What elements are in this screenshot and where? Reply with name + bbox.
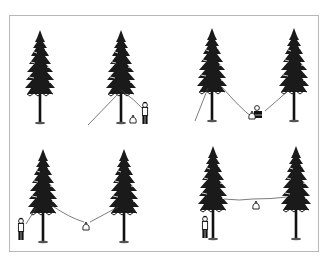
rope: [265, 90, 289, 111]
rope: [26, 208, 36, 224]
pine-tree-icon: [28, 149, 58, 243]
pine-tree-icon: [281, 146, 311, 240]
rope: [51, 205, 84, 222]
bag-icon: [130, 115, 136, 123]
pine-tree-icon: [197, 28, 227, 122]
person-icon: [202, 217, 207, 239]
pine-tree-icon: [279, 28, 309, 122]
rope: [195, 88, 208, 121]
pine-tree-icon: [109, 149, 139, 243]
person-icon: [142, 103, 147, 125]
bag-icon: [83, 222, 89, 230]
person-icon: [18, 219, 23, 241]
pine-tree-icon: [106, 30, 136, 124]
bear-bag-illustration: [0, 0, 329, 262]
panel-3: [18, 149, 139, 243]
bag-icon: [253, 201, 259, 209]
panel-1: [25, 30, 148, 125]
rope: [224, 197, 287, 200]
rope: [222, 87, 252, 117]
pine-tree-icon: [25, 30, 55, 124]
panel-4: [198, 146, 311, 240]
rope: [88, 95, 117, 125]
panel-2: [195, 28, 309, 122]
